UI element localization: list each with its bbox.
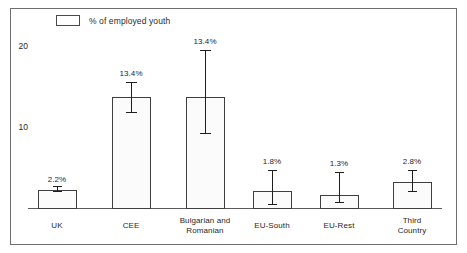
bar-cee[interactable]	[112, 97, 151, 209]
x-label-eu-rest: EU-Rest	[324, 221, 355, 231]
plot-area: 20 10 2.2% 13.4% 13.4% 1.8% 1.3%	[0, 0, 467, 253]
error-cap-top-eu-rest	[335, 172, 344, 173]
x-label-bulgarian-romanian: Bulgarian and Romanian	[180, 216, 231, 235]
error-cap-bottom-third-country	[408, 191, 417, 192]
error-bar-third-country	[412, 170, 413, 192]
y-tick-20: 20	[2, 41, 28, 51]
x-label-uk: UK	[51, 221, 62, 231]
error-cap-top-uk	[53, 186, 62, 187]
value-label-bulgarian-romanian: 13.4%	[193, 37, 216, 46]
error-bar-bulgarian-romanian	[205, 50, 206, 134]
value-label-third-country: 2.8%	[403, 157, 422, 166]
error-cap-bottom-uk	[53, 191, 62, 192]
bar-uk[interactable]	[38, 190, 77, 209]
value-label-cee: 13.4%	[119, 69, 142, 78]
error-bar-eu-rest	[339, 172, 340, 203]
error-bar-eu-south	[272, 170, 273, 205]
error-cap-bottom-bulgarian-romanian	[200, 133, 211, 134]
error-cap-top-cee	[126, 82, 137, 83]
x-label-cee: CEE	[123, 221, 140, 231]
chart-figure: % of employed youth 20 10 2.2% 13.4% 13.…	[0, 0, 467, 253]
error-cap-bottom-eu-rest	[335, 202, 344, 203]
error-cap-top-third-country	[408, 170, 417, 171]
y-tick-10: 10	[2, 122, 28, 132]
error-cap-top-bulgarian-romanian	[200, 50, 211, 51]
value-label-eu-south: 1.8%	[263, 157, 282, 166]
error-cap-bottom-eu-south	[268, 204, 277, 205]
error-cap-bottom-cee	[126, 112, 137, 113]
x-axis-baseline	[28, 208, 442, 209]
value-label-eu-rest: 1.3%	[330, 159, 349, 168]
error-bar-cee	[131, 82, 132, 113]
x-label-third-country: Third Country	[398, 216, 427, 235]
value-label-uk: 2.2%	[48, 175, 67, 184]
x-label-eu-south: EU-South	[254, 221, 289, 231]
error-cap-top-eu-south	[268, 170, 277, 171]
